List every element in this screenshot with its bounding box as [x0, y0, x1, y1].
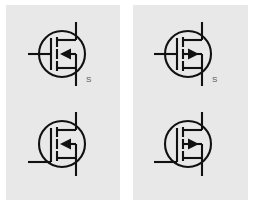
p-channel-mosfet-bottom: [26, 106, 98, 178]
n-channel-mosfet-bottom: [152, 106, 224, 178]
p-channel-arrow: [60, 139, 71, 150]
source-label-right: S: [212, 76, 217, 84]
figure-canvas: S S: [0, 0, 256, 220]
n-channel-arrow: [188, 139, 199, 150]
source-label-left: S: [86, 76, 91, 84]
p-channel-arrow: [60, 49, 71, 60]
bottom-cropped-caption: [0, 211, 256, 220]
n-channel-arrow: [188, 49, 199, 60]
